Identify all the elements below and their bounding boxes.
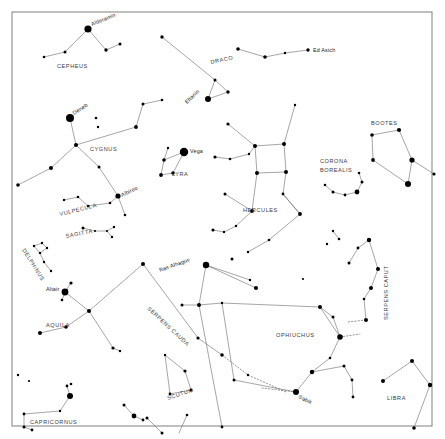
star-deneb bbox=[66, 114, 74, 122]
star-dot-ophiuchus bbox=[351, 379, 354, 382]
star-dot-libra bbox=[410, 359, 414, 363]
star-dot-scutum bbox=[183, 369, 186, 372]
star-dot-hercules bbox=[248, 153, 250, 155]
star-dot-aquila bbox=[87, 309, 91, 313]
star-dot-scutum bbox=[164, 354, 166, 356]
star-dot-extra-links bbox=[332, 230, 334, 232]
star-dot-aquila bbox=[119, 350, 121, 352]
star-dot-sagittarius-region bbox=[161, 432, 164, 435]
star-dot-sagittarius-region bbox=[146, 417, 149, 420]
star-dot-sagittarius-region bbox=[132, 414, 137, 419]
constellation-label-hercules: HERCULES bbox=[243, 207, 278, 213]
star-dot-extra-links bbox=[28, 380, 30, 382]
star-dot-extra-links bbox=[338, 238, 341, 241]
star-dot-serpens-cauda bbox=[196, 336, 199, 339]
star-vega bbox=[180, 148, 188, 156]
star-alderamin bbox=[84, 25, 91, 32]
star-dot-aquila bbox=[38, 331, 42, 335]
star-dot-draco bbox=[284, 52, 286, 54]
star-dot-serpens-caput bbox=[367, 238, 371, 242]
star-sabik bbox=[293, 389, 299, 395]
star-dot-aquila bbox=[141, 262, 145, 266]
constellation-label-lyra: LYRA bbox=[172, 171, 188, 177]
star-dot-ophiuchus bbox=[221, 302, 223, 304]
star-dot-extra-links bbox=[17, 374, 19, 376]
star-dot-bootes bbox=[409, 157, 414, 162]
star-dot-capricornus bbox=[70, 383, 73, 386]
star-dot-ophiuchus bbox=[352, 396, 355, 399]
star-dot-ophiuchus bbox=[332, 316, 335, 319]
star-dot-extra-links bbox=[268, 239, 271, 242]
star-dot-aquila bbox=[61, 299, 64, 302]
star-dot-serpens-caput bbox=[363, 298, 366, 301]
star-dot-serpens-caput bbox=[357, 247, 360, 250]
star-label-altair: Altair bbox=[46, 286, 59, 292]
star-dot-corona-borealis bbox=[361, 181, 364, 184]
constellation-label-bootes: BOOTES bbox=[371, 120, 398, 126]
star-dot-cygnus bbox=[142, 103, 145, 106]
star-dot-extra-links bbox=[294, 104, 296, 106]
star-dot-lyra bbox=[162, 158, 166, 162]
star-dot-vulpecula bbox=[109, 202, 112, 205]
star-dot-hercules bbox=[284, 170, 288, 174]
constellation-label-capricornus: CAPRICORNUS bbox=[30, 419, 77, 425]
star-dot-ophiuchus bbox=[221, 426, 224, 429]
star-dot-hercules bbox=[255, 171, 259, 175]
star-dot-extra-links bbox=[247, 251, 249, 253]
chart-frame bbox=[12, 12, 432, 426]
star-dot-vulpecula bbox=[77, 196, 80, 199]
star-dot-delphinus bbox=[41, 242, 43, 244]
star-dot-corona-borealis bbox=[332, 191, 335, 194]
star-dot-hercules bbox=[213, 155, 216, 158]
star-dot-hercules bbox=[224, 193, 227, 196]
star-dot-capricornus bbox=[23, 413, 26, 416]
star-dot-capricornus bbox=[67, 393, 73, 399]
star-dot-draco bbox=[226, 90, 229, 93]
star-dot-extra-links bbox=[302, 278, 304, 280]
star-dot-sagitta bbox=[94, 230, 96, 232]
star-dot-bootes bbox=[405, 181, 411, 187]
star-dot-bootes bbox=[397, 128, 401, 132]
star-dot-delphinus bbox=[46, 247, 48, 249]
star-dot-cepheus bbox=[64, 51, 67, 54]
star-dot-hercules bbox=[282, 193, 285, 196]
star-dot-capricornus bbox=[66, 385, 69, 388]
star-dot-delphinus bbox=[33, 245, 35, 247]
star-dot-bootes bbox=[370, 133, 374, 137]
star-dot-lyra bbox=[167, 147, 169, 149]
star-dot-libra bbox=[428, 383, 432, 387]
star-dot-sagittarius-region bbox=[142, 419, 145, 422]
star-dot-cepheus bbox=[43, 56, 46, 59]
star-dot-hercules bbox=[211, 228, 214, 231]
star-dot-sagitta bbox=[106, 230, 108, 232]
star-dot-libra bbox=[381, 379, 385, 383]
constellation-label-ophiuchus: OPHIUCHUS bbox=[276, 332, 315, 338]
star-dot-draco bbox=[160, 35, 163, 38]
star-dot-serpens-caput bbox=[369, 286, 373, 290]
star-dot-delphinus bbox=[50, 270, 52, 272]
star-dot-cepheus bbox=[119, 43, 122, 46]
star-chart-canvas: CEPHEUSAlderaminDRACOEltaninEd AsichCYGN… bbox=[0, 0, 445, 439]
star-dot-ophiuchus bbox=[310, 370, 314, 374]
star-dot-corona-borealis bbox=[344, 194, 347, 197]
star-dot-sagitta bbox=[113, 226, 115, 228]
star-dot-capricornus bbox=[23, 426, 26, 429]
star-dot-capricornus bbox=[59, 410, 61, 412]
star-dot-cygnus bbox=[98, 166, 101, 169]
star-dot-draco bbox=[263, 55, 267, 59]
star-dot-aquila bbox=[111, 346, 114, 349]
constellation-label-aquila: AQUILA bbox=[46, 322, 70, 328]
constellation-label-corona-borealis: CORONA bbox=[320, 158, 348, 164]
star-dot-ophiuchus bbox=[233, 379, 236, 382]
star-dot-cygnus bbox=[16, 183, 20, 187]
star-dot-hercules bbox=[253, 144, 257, 148]
star-dot-ophiuchus bbox=[181, 304, 184, 307]
constellation-label-cepheus: CEPHEUS bbox=[57, 63, 88, 69]
star-dot-ophiuchus bbox=[197, 303, 201, 307]
constellation-label-cygnus: CYGNUS bbox=[90, 146, 117, 152]
constellation-label-serpens-caput: SERPENS CAPUT bbox=[383, 266, 389, 320]
star-dot-serpens-caput bbox=[348, 262, 351, 265]
star-dot-ophiuchus bbox=[249, 279, 251, 281]
star-dot-ophiuchus bbox=[231, 258, 234, 261]
star-dot-serpens-caput bbox=[364, 318, 368, 322]
